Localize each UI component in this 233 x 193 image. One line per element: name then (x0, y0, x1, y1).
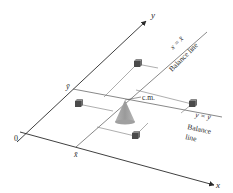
balance-line-y-caption-2: line (185, 132, 199, 143)
mass-cube-right (189, 99, 197, 107)
origin-label: 0 (14, 134, 18, 143)
center-of-mass-label: c.m. (142, 93, 155, 102)
mass-connector-lines (78, 64, 192, 136)
cm-leader-line (125, 97, 141, 100)
balance-line-y-equation: y = ȳ (194, 110, 212, 122)
y-bar-label: ȳ (65, 82, 70, 91)
balance-line-x-equation: x = x̄ (167, 34, 185, 52)
y-axis-label: y (150, 10, 155, 20)
mass-cube-bottom (132, 131, 140, 139)
x-axis-label: x (215, 180, 220, 190)
center-of-mass-diagram: y x 0 ȳ x̄ c.m. x = x̄ Balance line y = … (0, 0, 233, 193)
mass-cube-top (134, 59, 142, 67)
fulcrum-cone (115, 100, 135, 125)
x-bar-label: x̄ (73, 150, 78, 159)
mass-cube-left (75, 99, 83, 107)
